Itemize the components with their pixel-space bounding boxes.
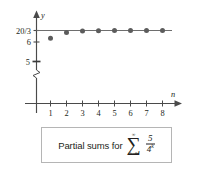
y-axis-break-icon	[33, 70, 40, 78]
caption-label: Partial sums for	[58, 139, 122, 150]
fraction-denominator: 4k	[146, 144, 155, 153]
data-point-n5	[112, 28, 117, 33]
caption-box: Partial sums for ∞ ∑ k=0 5 4k	[41, 127, 172, 163]
y-axis-label: y	[40, 11, 45, 20]
data-point-n1	[48, 36, 53, 41]
y-tick-label-6: 6	[27, 38, 31, 47]
denominator-exponent: k	[151, 142, 153, 148]
x-axis-label: n	[171, 90, 175, 99]
x-tick-label-8: 8	[160, 109, 164, 118]
data-point-n8	[160, 28, 165, 33]
summation-symbol-group: ∞ ∑ k=0	[127, 133, 141, 157]
y-tick-label-5: 5	[26, 58, 30, 67]
x-tick-label-5: 5	[112, 109, 116, 118]
data-point-n6	[128, 28, 133, 33]
summation-lower-limit: k=0	[130, 152, 137, 157]
x-axis-arrow-icon	[175, 100, 183, 107]
caption-content: Partial sums for ∞ ∑ k=0 5 4k	[58, 133, 155, 157]
x-tick-label-2: 2	[64, 109, 68, 118]
x-tick-label-4: 4	[96, 109, 101, 118]
x-tick-labels: 1 2 3 4 5 6 7 8	[48, 109, 164, 118]
data-point-n4	[96, 28, 101, 33]
figure-partial-sums: y 20/3 6 5 n	[0, 0, 197, 170]
fraction-group: 5 4k	[146, 134, 155, 154]
data-point-n3	[80, 29, 85, 34]
x-tick-label-3: 3	[80, 109, 84, 118]
x-axis-group: n 1 2 3 4 5 6 7 8	[25, 90, 182, 118]
x-tick-label-7: 7	[144, 109, 148, 118]
x-tick-label-6: 6	[128, 109, 132, 118]
data-points	[48, 28, 165, 41]
x-tick-label-1: 1	[48, 109, 52, 118]
data-point-n7	[144, 28, 149, 33]
y-axis-group: y 20/3 6 5	[16, 11, 45, 114]
y-axis-arrow-icon	[33, 11, 40, 19]
data-point-n2	[64, 30, 69, 35]
y-tick-label-20-3: 20/3	[16, 27, 31, 36]
